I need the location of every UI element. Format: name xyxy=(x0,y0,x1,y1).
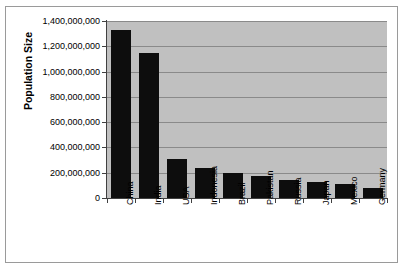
x-tick-mark xyxy=(107,199,108,203)
x-tick-mark xyxy=(331,199,332,203)
x-category-label: Mexico xyxy=(349,176,359,205)
x-tick-mark xyxy=(359,199,360,203)
chart-frame: Population Size 0200,000,000400,000,0006… xyxy=(5,6,398,263)
x-category-label: China xyxy=(125,181,135,205)
x-tick-mark xyxy=(387,199,388,203)
x-category-label: Brazil xyxy=(237,182,247,205)
x-category-label: India xyxy=(153,185,163,205)
x-category-label: USA xyxy=(181,186,191,205)
x-tick-mark xyxy=(163,199,164,203)
x-tick-mark xyxy=(275,199,276,203)
x-category-label: Indonesia xyxy=(209,166,219,205)
x-axis-labels: ChinaIndiaUSAIndonesiaBrazilPakistanRuss… xyxy=(6,7,397,262)
x-category-label: Russia xyxy=(293,177,303,205)
x-tick-mark xyxy=(247,199,248,203)
x-tick-mark xyxy=(219,199,220,203)
x-tick-mark xyxy=(191,199,192,203)
x-category-label: Germany xyxy=(377,168,387,205)
x-tick-mark xyxy=(303,199,304,203)
chart-screenshot: Population Size 0200,000,000400,000,0006… xyxy=(0,0,406,274)
x-tick-mark xyxy=(135,199,136,203)
x-category-label: Japan xyxy=(321,180,331,205)
x-category-label: Pakistan xyxy=(265,170,275,205)
